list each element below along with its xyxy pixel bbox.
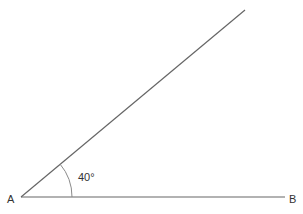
angle-label: 40° [78,171,95,183]
vertex-label-a: A [7,193,15,205]
ray-inclined [21,10,245,197]
angle-arc [60,164,72,197]
angle-diagram: A B 40° [0,0,303,214]
point-label-b: B [289,193,296,205]
